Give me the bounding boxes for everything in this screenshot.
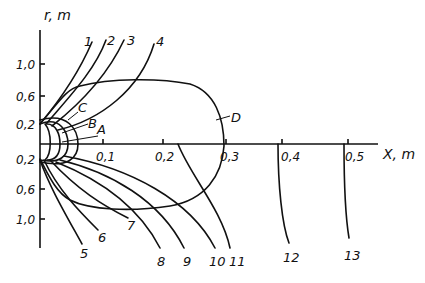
curve-label-1: 1 [84, 34, 92, 49]
curve-label-2: 2 [107, 33, 115, 48]
trajectory-10 [64, 156, 215, 248]
x-tick-0-4: 0,4 [281, 150, 300, 164]
y-tick-lower-0-2: 0,2 [16, 153, 35, 167]
region-label-a: A [96, 122, 106, 137]
region-label-d: D [231, 110, 241, 125]
curve-label-8: 8 [157, 254, 165, 269]
y-tick-upper-1-0: 1,0 [16, 58, 35, 72]
trajectory-3 [52, 40, 124, 126]
curve-label-12: 12 [283, 250, 300, 265]
curve-label-9: 9 [183, 254, 191, 269]
curve-label-7: 7 [127, 218, 136, 233]
x-tick-0-1: 0,1 [96, 150, 115, 164]
trajectory-8 [56, 162, 160, 248]
axes [40, 30, 378, 248]
diagram-figure: r, m X, m 1,0 0,6 0,2 0,2 0,6 1,0 0,1 0,… [0, 0, 425, 283]
y-tick-lower-0-6: 0,6 [16, 183, 35, 197]
curve-label-11: 11 [229, 254, 246, 269]
leader-d [216, 116, 230, 120]
curve-label-6: 6 [98, 230, 106, 245]
y-tick-upper-0-2: 0,2 [16, 118, 35, 132]
inner-arc [45, 124, 50, 160]
y-axis-label: r, m [44, 7, 71, 23]
curve-label-3: 3 [127, 33, 135, 48]
y-tick-upper-0-6: 0,6 [16, 90, 35, 104]
curve-label-10: 10 [209, 254, 226, 269]
leader-c [68, 112, 78, 120]
curve-label-5: 5 [80, 246, 88, 261]
y-tick-lower-1-0: 1,0 [16, 213, 35, 227]
x-tick-0-2: 0,2 [155, 150, 174, 164]
x-axis-label: X, m [382, 146, 415, 162]
x-tick-0-5: 0,5 [345, 150, 364, 164]
curve-label-13: 13 [344, 248, 361, 263]
curve-label-4: 4 [156, 34, 164, 49]
